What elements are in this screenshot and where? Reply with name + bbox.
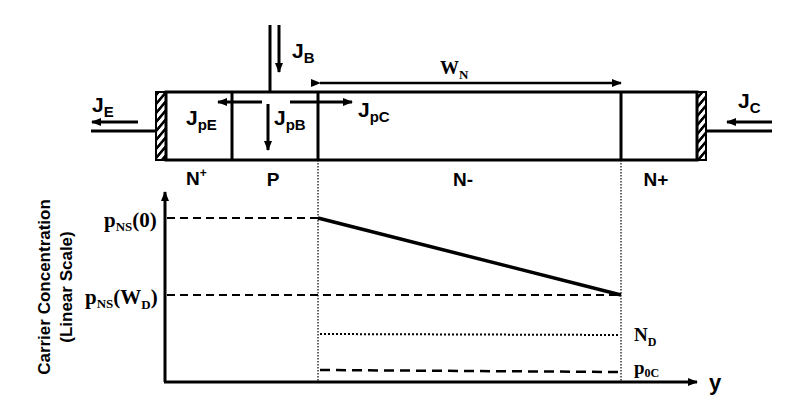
wn-label: WN <box>440 57 469 82</box>
jpb-label: JpB <box>274 106 306 133</box>
region-label-drift: N- <box>453 169 473 190</box>
plot-area <box>164 160 697 382</box>
region-label-base: P <box>267 169 280 190</box>
y-axis-title-line1: Carrier Concentration <box>35 199 54 375</box>
bjt-carrier-diagram: WN JE JB JC JpE JpB JpC N+ P N- N+ <box>0 0 801 413</box>
jpe-label: JpE <box>186 106 217 133</box>
jc-label: JC <box>738 89 761 116</box>
pns0-label: pNS(0) <box>104 208 157 234</box>
hole-profile-line <box>318 218 621 295</box>
p0c-label: p0C <box>634 357 659 380</box>
pnswd-label: pNS(WD) <box>85 285 158 312</box>
y-axis-title-line2: (Linear Scale) <box>57 231 76 343</box>
region-label-emitter: N+ <box>186 166 207 189</box>
je-label: JE <box>92 93 114 120</box>
nd-level-line <box>320 334 620 335</box>
nd-label: ND <box>634 324 657 349</box>
region-label-collector: N+ <box>644 169 669 190</box>
p0c-level-line <box>320 370 620 372</box>
x-axis-label: y <box>709 370 722 395</box>
jpc-label: JpC <box>358 98 390 125</box>
jb-label: JB <box>292 39 315 66</box>
y-axis-title: Carrier Concentration (Linear Scale) <box>35 199 76 375</box>
